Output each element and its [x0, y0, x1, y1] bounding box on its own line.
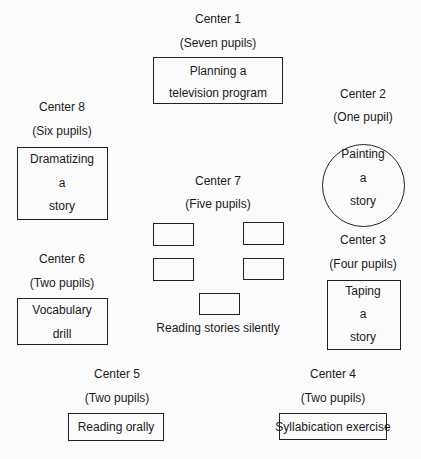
center-7-activity: Reading stories silently [156, 321, 279, 335]
center-6-activity-line-1: Vocabulary [32, 303, 91, 317]
center-3-activity-line-2: a [360, 307, 367, 321]
center-3-activity-line-1: Taping [345, 284, 380, 298]
center-7-pupils: (Five pupils) [185, 197, 250, 211]
center-4-title: Center 4 [310, 367, 356, 381]
center-5-pupils: (Two pupils) [85, 391, 150, 405]
center-5-title: Center 5 [94, 367, 140, 381]
center-7-desk-5 [199, 293, 240, 315]
center-2-pupils: (One pupil) [333, 110, 392, 124]
center-8-pupils: (Six pupils) [32, 124, 91, 138]
center-2-activity-line-1: Painting [341, 147, 384, 161]
center-1-pupils: (Seven pupils) [180, 36, 257, 50]
center-6-title: Center 6 [39, 252, 85, 266]
center-2-title: Center 2 [340, 87, 386, 101]
center-7-desk-1 [153, 223, 194, 246]
center-8-activity-line-3: story [49, 199, 75, 213]
center-1-title: Center 1 [195, 12, 241, 26]
center-8-activity-line-1: Dramatizing [30, 152, 94, 166]
center-7-title: Center 7 [195, 174, 241, 188]
center-7-desk-2 [243, 222, 284, 245]
center-2-activity-line-3: story [350, 194, 376, 208]
center-8-title: Center 8 [39, 100, 85, 114]
center-1-activity-line-2: television program [169, 86, 267, 100]
center-2-activity-line-2: a [360, 171, 367, 185]
center-8-activity-line-2: a [59, 176, 66, 190]
center-5-activity: Reading orally [78, 420, 155, 434]
center-4-pupils: (Two pupils) [301, 391, 366, 405]
center-3-activity-line-3: story [350, 330, 376, 344]
center-4-activity: Syllabication exercise [275, 420, 390, 434]
center-6-activity-line-2: drill [53, 327, 72, 341]
center-6-pupils: (Two pupils) [30, 276, 95, 290]
center-3-pupils: (Four pupils) [329, 257, 396, 271]
center-7-desk-4 [243, 258, 284, 280]
center-3-title: Center 3 [340, 233, 386, 247]
center-1-activity-line-1: Planning a [190, 64, 247, 78]
center-7-desk-3 [153, 258, 194, 281]
